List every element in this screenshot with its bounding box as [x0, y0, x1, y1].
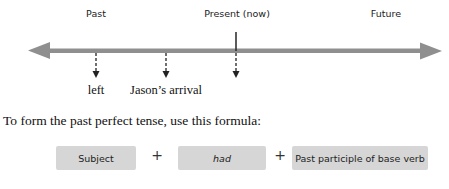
plus-sign-2: + — [274, 147, 286, 163]
formula-box-subject: Subject — [56, 146, 136, 170]
timeline-arrow — [28, 42, 442, 60]
formula-had-label: had — [213, 153, 231, 164]
label-future: Future — [371, 8, 401, 19]
event-label-jasons-arrival: Jason’s arrival — [130, 83, 202, 98]
event-arrow-present — [233, 53, 240, 78]
arrowhead-right-icon — [420, 43, 442, 60]
formula-subject-label: Subject — [78, 153, 114, 164]
event-arrow-left — [93, 53, 100, 78]
label-present: Present (now) — [204, 8, 270, 19]
instruction-text: To form the past perfect tense, use this… — [3, 113, 261, 129]
formula-past-participle-label: Past participle of base verb — [295, 153, 425, 164]
formula-box-had: had — [178, 146, 266, 170]
plus-sign-1: + — [151, 147, 163, 163]
event-arrow-jasons-arrival — [163, 53, 170, 78]
formula-box-past-participle: Past participle of base verb — [292, 146, 428, 170]
label-past: Past — [86, 8, 106, 19]
arrowhead-left-icon — [28, 42, 50, 59]
event-label-left: left — [88, 83, 105, 98]
